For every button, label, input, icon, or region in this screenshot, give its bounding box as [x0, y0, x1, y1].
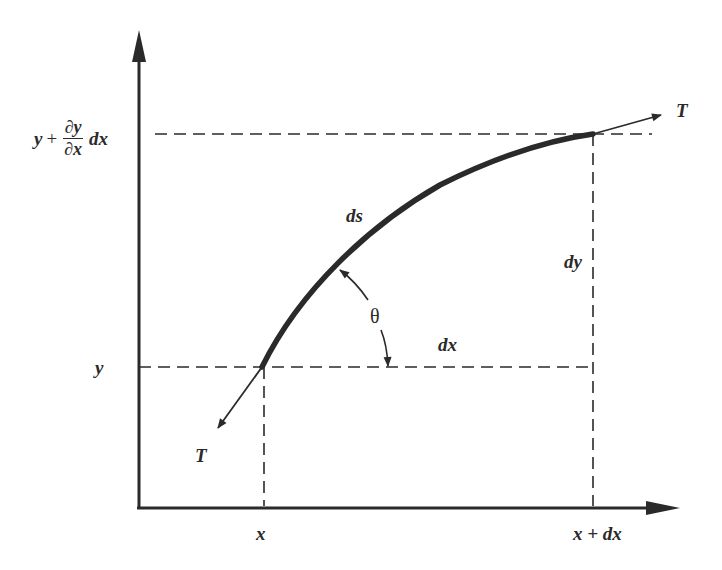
- partial-derivative-fraction: ∂y ∂x: [63, 118, 83, 159]
- tension-vectors: [218, 115, 661, 428]
- x-axis: [137, 501, 680, 515]
- delta-y-label: dy: [564, 252, 582, 271]
- x-left-label: x: [256, 524, 266, 543]
- y-upper-prefix: y: [34, 129, 42, 148]
- arc-length-label: ds: [346, 206, 363, 225]
- fraction-denominator: ∂x: [63, 140, 83, 159]
- tension-top-label: T: [676, 101, 688, 120]
- angle-arc: [340, 270, 388, 366]
- fraction-numerator: ∂y: [64, 118, 83, 137]
- delta-x-label: dx: [438, 335, 457, 354]
- angle-theta-label: θ: [370, 306, 380, 326]
- guide-lines: [139, 134, 652, 506]
- x-axis-arrow-icon: [646, 501, 680, 515]
- y-upper-suffix: dx: [89, 129, 108, 148]
- y-upper-label: y + ∂y ∂x dx: [34, 118, 108, 159]
- x-right-label: x + dx: [573, 524, 622, 543]
- y-upper-plus: +: [46, 129, 57, 148]
- diagram-canvas: [0, 0, 722, 570]
- y-axis-arrow-icon: [132, 30, 146, 62]
- tension-bottom-arrow-icon: [218, 367, 262, 428]
- tension-bottom-label: T: [195, 446, 207, 465]
- tension-top-arrow-icon: [593, 115, 661, 134]
- y-axis: [132, 30, 146, 508]
- string-curve: [262, 134, 593, 367]
- angle-arc-lower-arrow-icon: [381, 330, 388, 366]
- angle-arc-upper-arrow-icon: [340, 270, 368, 300]
- y-lower-label: y: [95, 358, 103, 377]
